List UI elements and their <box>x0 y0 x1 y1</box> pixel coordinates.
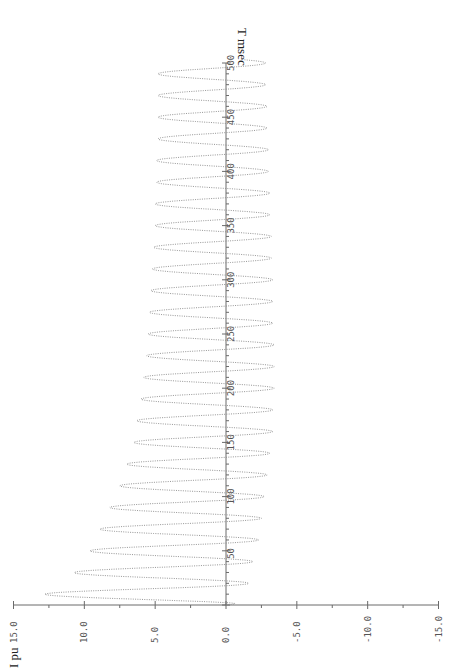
current-tick-label: 10.0 <box>79 621 89 643</box>
current-waveform <box>45 60 275 605</box>
current-tick-label: -10.0 <box>363 616 373 643</box>
time-tick-label: 350 <box>226 217 236 233</box>
time-tick-label: 200 <box>226 380 236 396</box>
current-tick-label: 0.0 <box>221 627 231 643</box>
time-tick-label: 450 <box>226 109 236 125</box>
current-tick-label: -5.0 <box>292 621 302 643</box>
current-tick-label: -15.0 <box>434 616 444 643</box>
axes: 15.010.05.00.0-5.0-10.0-15.0501001502002… <box>9 55 444 643</box>
time-tick-label: 100 <box>226 488 236 504</box>
time-tick-label: 400 <box>226 163 236 179</box>
chart-plot: 15.010.05.00.0-5.0-10.0-15.0501001502002… <box>0 0 454 672</box>
time-tick-label: 250 <box>226 326 236 342</box>
current-tick-label: 5.0 <box>150 627 160 643</box>
current-axis-title: I pu <box>6 628 22 668</box>
time-tick-label: 300 <box>226 272 236 288</box>
time-tick-label: 150 <box>226 434 236 450</box>
time-axis-title: T msec <box>234 28 250 88</box>
current-trace <box>45 60 275 605</box>
time-tick-label: 50 <box>226 548 236 559</box>
